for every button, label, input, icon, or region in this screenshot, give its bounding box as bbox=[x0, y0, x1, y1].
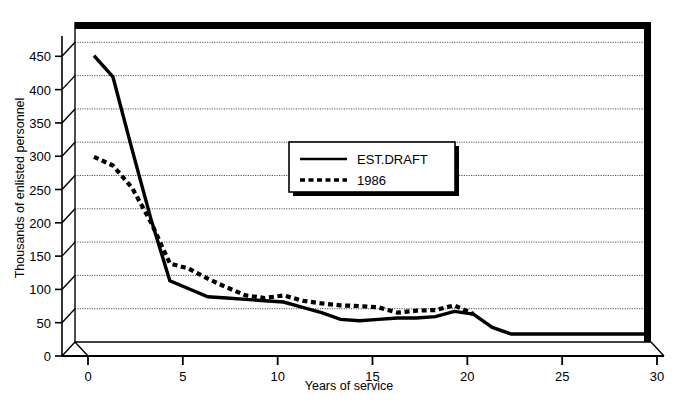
y-tick-label: 150 bbox=[29, 249, 51, 264]
left-wall-panel bbox=[62, 22, 75, 356]
y-tick-label: 200 bbox=[29, 216, 51, 231]
x-tick-label: 5 bbox=[179, 369, 186, 384]
frame-top-bar bbox=[75, 22, 651, 29]
y-tick-labels: 050100150200250300350400450 bbox=[29, 49, 51, 364]
frame-right-bar bbox=[644, 22, 651, 342]
y-tick-label: 250 bbox=[29, 183, 51, 198]
x-tick-label: 10 bbox=[270, 369, 284, 384]
x-tick-label: 25 bbox=[555, 369, 569, 384]
y-tick-label: 300 bbox=[29, 149, 51, 164]
y-tick-label: 450 bbox=[29, 49, 51, 64]
x-tick-label: 0 bbox=[84, 369, 91, 384]
chart-container: 050100150200250300350400450 051015202530… bbox=[0, 0, 698, 411]
legend: EST.DRAFT 1986 bbox=[289, 142, 459, 196]
y-tick-label: 0 bbox=[44, 349, 51, 364]
y-tick-label: 400 bbox=[29, 83, 51, 98]
floor-panel bbox=[75, 342, 664, 356]
x-tick-label: 20 bbox=[460, 369, 474, 384]
y-tick-label: 50 bbox=[37, 316, 51, 331]
x-axis-ticks bbox=[88, 356, 657, 365]
y-axis-title: Thousands of enlisted personnel bbox=[13, 98, 27, 279]
x-tick-label: 30 bbox=[650, 369, 664, 384]
x-axis-title: Years of service bbox=[305, 379, 394, 393]
line-chart: 050100150200250300350400450 051015202530… bbox=[0, 0, 698, 411]
legend-label-1986: 1986 bbox=[357, 173, 386, 188]
legend-label-est-draft: EST.DRAFT bbox=[357, 152, 428, 167]
y-tick-label: 350 bbox=[29, 116, 51, 131]
y-tick-label: 100 bbox=[29, 282, 51, 297]
